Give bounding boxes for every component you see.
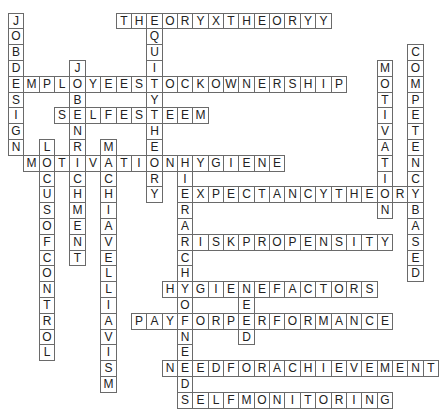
crossword-cell: M	[315, 313, 332, 330]
crossword-cell: I	[208, 281, 224, 298]
crossword-cell: D	[407, 265, 424, 282]
crossword-cell: U	[146, 44, 163, 61]
crossword-cell: Y	[377, 234, 393, 251]
crossword-cell: P	[39, 76, 55, 93]
crossword-cell: U	[39, 186, 55, 203]
crossword-cell: N	[162, 155, 178, 172]
crossword-cell: E	[361, 360, 378, 377]
crossword-cell: P	[238, 234, 255, 251]
crossword-cell: D	[238, 329, 255, 345]
crossword-cell: E	[177, 360, 193, 377]
crossword-cell: T	[423, 360, 439, 377]
crossword-cell: C	[69, 171, 86, 187]
crossword-cell: I	[284, 392, 301, 409]
crossword-cell: X	[192, 186, 209, 203]
crossword-cell: X	[208, 13, 224, 29]
crossword-cell: H	[162, 281, 178, 298]
crossword-cell: Y	[192, 155, 209, 172]
crossword-cell: S	[131, 76, 147, 93]
crossword-cell: H	[131, 13, 147, 29]
crossword-cell: R	[254, 234, 270, 251]
crossword-cell: O	[269, 13, 285, 29]
crossword-cell: O	[407, 60, 424, 77]
crossword-cell: R	[392, 186, 408, 203]
crossword-cell: H	[238, 13, 255, 29]
crossword-cell: N	[284, 186, 301, 203]
crossword-cell: A	[100, 218, 117, 235]
crossword-cell: Y	[146, 92, 163, 108]
crossword-cell: H	[346, 186, 362, 203]
crossword-cell: C	[39, 171, 55, 187]
crossword-cell: S	[284, 76, 301, 93]
crossword-cell: V	[346, 360, 362, 377]
crossword-cell: E	[69, 107, 86, 124]
crossword-cell: E	[238, 297, 255, 314]
crossword-cell: R	[284, 13, 301, 29]
crossword-cell: L	[39, 344, 55, 361]
crossword-cell: I	[377, 171, 393, 187]
crossword-cell: T	[39, 297, 55, 314]
crossword-cell: E	[177, 344, 193, 361]
crossword-cell: E	[269, 155, 285, 172]
crossword-cell: Y	[192, 13, 209, 29]
crossword-cell: R	[208, 313, 224, 330]
crossword-cell: R	[177, 13, 193, 29]
crossword-cell: M	[238, 392, 255, 409]
crossword-cell: T	[69, 250, 86, 266]
crossword-cell: N	[8, 139, 24, 156]
crossword-cell: L	[85, 107, 101, 124]
crossword-cell: M	[377, 60, 393, 77]
crossword-cell: N	[407, 360, 424, 377]
crossword-cell: P	[208, 186, 224, 203]
crossword-cell: A	[377, 139, 393, 156]
crossword-cell: O	[8, 28, 24, 45]
crossword-cell: I	[100, 344, 117, 361]
crossword-cell: N	[407, 155, 424, 172]
crossword-cell: P	[331, 76, 347, 93]
crossword-cell: E	[392, 360, 408, 377]
crossword-cell: Y	[146, 186, 163, 203]
crossword-cell: O	[146, 155, 163, 172]
crossword-cell: T	[377, 92, 393, 108]
crossword-cell: N	[69, 234, 86, 251]
crossword-cell: S	[8, 92, 24, 108]
crossword-cell: M	[100, 139, 117, 156]
crossword-cell: F	[39, 234, 55, 251]
crossword-cell: P	[407, 92, 424, 108]
crossword-cell: E	[162, 107, 178, 124]
crossword-cell: K	[223, 234, 239, 251]
crossword-cell: E	[238, 155, 255, 172]
crossword-cell: N	[238, 76, 255, 93]
crossword-cell: O	[162, 76, 178, 93]
crossword-cell: O	[269, 234, 285, 251]
crossword-cell: N	[238, 281, 255, 298]
crossword-cell: L	[100, 281, 117, 298]
crossword-cell: M	[69, 202, 86, 219]
crossword-cell: G	[208, 155, 224, 172]
crossword-cell: I	[146, 60, 163, 77]
crossword-cell: I	[100, 202, 117, 219]
crossword-cell: D	[8, 60, 24, 77]
crossword-cell: L	[208, 392, 224, 409]
crossword-cell: E	[69, 218, 86, 235]
crossword-cell: R	[300, 313, 316, 330]
crossword-cell: H	[69, 186, 86, 203]
crossword-cell: S	[131, 107, 147, 124]
crossword-cell: A	[407, 218, 424, 235]
crossword-cell: I	[315, 76, 332, 93]
crossword-cell: H	[300, 76, 316, 93]
crossword-cell: I	[346, 392, 362, 409]
crossword-cell: E	[254, 13, 270, 29]
crossword-cell: M	[100, 376, 117, 393]
crossword-cell: I	[8, 107, 24, 124]
crossword-cell: T	[146, 107, 163, 124]
crossword-cell: O	[39, 329, 55, 345]
crossword-cell: Y	[300, 13, 316, 29]
crossword-cell: T	[300, 392, 316, 409]
crossword-cell: N	[254, 155, 270, 172]
crossword-cell: E	[238, 313, 255, 330]
crossword-cell: P	[284, 234, 301, 251]
crossword-cell: R	[69, 139, 86, 156]
crossword-cell: O	[69, 76, 86, 93]
crossword-cell: H	[300, 360, 316, 377]
